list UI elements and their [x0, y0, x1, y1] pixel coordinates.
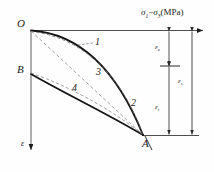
curve-2-label: 2	[131, 98, 136, 108]
dim-epsilon-t-label: εt	[155, 104, 159, 113]
curve-3-label: 3	[96, 67, 101, 77]
point-B-label: B	[17, 64, 24, 75]
dim-epsilon-s-label: εs	[178, 78, 183, 87]
stress-strain-figure: σ1−σ3(MPa) O B A ε 1 2 3 4 εe εs εt	[0, 0, 214, 172]
curve-1-label: 1	[95, 37, 100, 47]
curve-4-label: 4	[72, 83, 77, 93]
point-A-label: A	[142, 138, 149, 149]
dim-epsilon-e-label: εe	[155, 44, 160, 53]
sigma-axis-label: σ1−σ3(MPa)	[141, 8, 183, 19]
leader-line-1	[78, 43, 93, 45]
strain-axis-label: ε	[21, 140, 24, 148]
point-O-label: O	[17, 18, 25, 29]
